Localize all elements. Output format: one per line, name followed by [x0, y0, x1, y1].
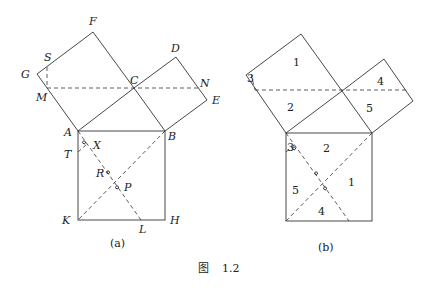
region-1-top: 1: [293, 56, 300, 69]
label-l: L: [138, 223, 146, 236]
label-x: X: [92, 139, 102, 152]
line-al: [78, 131, 141, 220]
right-angle-mark-b3: [323, 187, 326, 190]
label-b: B: [167, 130, 176, 143]
square-bc-b: [342, 59, 413, 133]
label-k: K: [61, 214, 71, 227]
caption-b: (b): [318, 241, 334, 254]
label-r: R: [95, 167, 104, 180]
label-n: N: [199, 77, 210, 90]
right-angle-mark-b2: [314, 172, 317, 175]
label-f: F: [88, 15, 97, 28]
region-3-bottom: 3: [287, 141, 294, 154]
label-m: M: [35, 91, 48, 104]
label-c: C: [130, 74, 139, 87]
right-angle-mark-p: [115, 186, 118, 189]
region-4-bottom: 4: [318, 205, 325, 218]
label-h: H: [169, 214, 180, 227]
label-s: S: [44, 51, 52, 64]
label-p: P: [123, 181, 132, 194]
panel-a: F S G M C D N E A B T X R P K L H (a): [21, 15, 220, 250]
region-5-top: 5: [366, 102, 373, 115]
label-d: D: [170, 42, 180, 55]
region-5-bottom: 5: [292, 184, 299, 197]
pythagorean-dissection-figure: F S G M C D N E A B T X R P K L H (a) 1 …: [0, 0, 436, 291]
figure-caption-prefix: 图: [198, 262, 209, 275]
region-2-top: 2: [287, 101, 294, 114]
figure-caption-number: 1.2: [222, 262, 240, 275]
label-a: A: [63, 126, 72, 139]
region-1-bottom: 1: [348, 176, 355, 189]
label-t: T: [64, 148, 73, 161]
line-tx: [78, 144, 87, 152]
square-bc: [134, 57, 207, 131]
region-2-bottom: 2: [323, 142, 330, 155]
square-ac-b: [246, 34, 342, 133]
right-angle-mark-x: [82, 141, 85, 144]
region-3-top: 3: [247, 72, 254, 85]
square-ac: [37, 32, 134, 131]
label-e: E: [211, 94, 220, 107]
region-4-top: 4: [377, 75, 384, 88]
caption-a: (a): [110, 237, 125, 250]
panel-b: 1 2 3 4 5 2 1 5 4 3 (b): [246, 34, 413, 254]
line-bk: [78, 131, 165, 220]
right-angle-mark-r: [106, 171, 109, 174]
label-g: G: [21, 68, 30, 81]
